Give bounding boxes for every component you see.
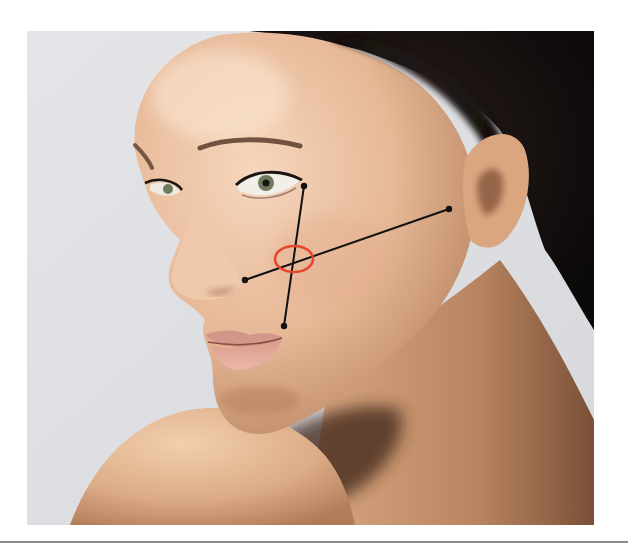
portrait-photo	[0, 0, 628, 553]
chin-shadow	[220, 386, 300, 414]
point-lateral-canthus	[301, 183, 307, 189]
bottom-divider	[0, 541, 628, 543]
forehead-highlight	[150, 50, 290, 140]
point-nasal-ala	[242, 277, 248, 283]
point-tragus	[446, 206, 452, 212]
point-oral-commissure	[281, 323, 287, 329]
